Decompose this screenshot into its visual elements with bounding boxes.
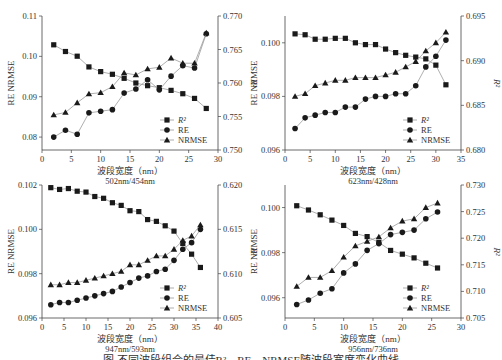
legend-label: NRMSE [421, 135, 450, 145]
legend-label: NRMSE [178, 135, 207, 145]
circle-marker [157, 87, 163, 93]
circle-marker [154, 269, 160, 275]
x-axis-label: 波段宽度（nm） [97, 333, 163, 344]
circle-marker [400, 230, 406, 236]
x-tick-label: 15 [126, 154, 135, 164]
legend-label: NRMSE [178, 303, 207, 313]
square-marker [443, 82, 448, 87]
square-marker [400, 252, 405, 257]
legend: R²RENRMSE [403, 283, 450, 313]
circle-marker [83, 295, 89, 301]
circle-marker [411, 227, 417, 233]
circle-marker [162, 266, 168, 272]
square-marker [154, 219, 159, 224]
square-marker [198, 265, 203, 270]
figure-caption: 图 不同波段组合的最佳R²、RE、NRMSE随波段宽度变化曲线 [0, 353, 502, 360]
square-marker [192, 96, 197, 101]
circle-marker [48, 302, 54, 308]
x-tick-label: 30 [432, 154, 441, 164]
y-tick-label: 0.09 [22, 92, 37, 102]
square-marker [423, 261, 428, 266]
legend-label: RE [421, 293, 432, 303]
chart-panel-p4: 0510152025300.0960.0980.1000.7050.7100.7… [249, 180, 502, 354]
square-marker [294, 203, 299, 208]
triangle-marker [423, 48, 429, 54]
circle-marker [383, 94, 389, 100]
square-marker [333, 36, 338, 41]
circle-marker [373, 94, 379, 100]
y2-tick-label: 0.705 [466, 313, 485, 323]
square-marker [353, 231, 358, 236]
circle-marker [433, 53, 439, 59]
x-tick-label: 30 [214, 154, 223, 164]
square-marker [51, 42, 56, 47]
triangle-marker [144, 257, 150, 263]
square-marker [119, 203, 124, 208]
series-r2 [292, 31, 448, 87]
chart-canvas: 0510152025300.080.090.100.110.7500.7550.… [0, 0, 502, 360]
y2-tick-label: 0.755 [223, 112, 242, 122]
circle-marker [136, 275, 142, 281]
x-tick-label: 25 [427, 322, 436, 332]
y-tick-label: 0.098 [261, 248, 280, 258]
x-tick-label: 20 [398, 322, 407, 332]
x-tick-label: 15 [104, 322, 113, 332]
circle-marker [171, 258, 177, 264]
square-marker [48, 185, 53, 190]
x-tick-label: 5 [69, 154, 73, 164]
legend-label: RE [178, 125, 189, 135]
x-tick-label: 5 [308, 154, 312, 164]
chart-subtitle: 623nm/428nm [348, 176, 398, 186]
square-marker [189, 252, 194, 257]
y-tick-label: 0.11 [22, 11, 37, 21]
square-marker [66, 186, 71, 191]
y2-tick-label: 0.620 [223, 180, 242, 190]
y-tick-label: 0.100 [18, 224, 37, 234]
y-tick-label: 0.100 [261, 38, 280, 48]
series-nrmse [51, 30, 210, 118]
square-marker [363, 42, 368, 47]
chart-panel-p1: 0510152025300.080.090.100.110.7500.7550.… [6, 11, 259, 186]
y2-tick-label: 0.770 [223, 11, 242, 21]
square-marker [145, 83, 150, 88]
square-marker [403, 53, 408, 58]
square-marker [323, 37, 328, 42]
x-tick-label: 35 [192, 322, 201, 332]
x-tick-label: 25 [148, 322, 157, 332]
circle-marker [343, 104, 349, 110]
circle-marker [66, 300, 72, 306]
circle-marker [317, 290, 323, 296]
y2-tick-label: 0.685 [466, 100, 485, 110]
y2-tick-label: 0.690 [466, 56, 485, 66]
circle-marker [435, 209, 441, 215]
square-marker [110, 200, 115, 205]
triangle-marker [294, 283, 300, 289]
square-marker [136, 209, 141, 214]
y-axis-label: RE NRMSE [6, 60, 16, 105]
circle-marker [110, 107, 116, 113]
square-marker [204, 106, 209, 111]
square-marker [353, 40, 358, 45]
x-tick-label: 0 [40, 154, 44, 164]
circle-marker [407, 127, 413, 133]
series-re [294, 209, 440, 307]
triangle-marker [402, 64, 408, 70]
circle-marker [51, 134, 57, 140]
square-marker [163, 223, 168, 228]
square-marker [101, 196, 106, 201]
triangle-marker [74, 100, 80, 106]
x-tick-label: 10 [339, 322, 348, 332]
x-tick-label: 10 [82, 322, 91, 332]
square-marker [92, 194, 97, 199]
x-tick-label: 30 [170, 322, 179, 332]
y-tick-label: 0.08 [22, 132, 37, 142]
y-tick-label: 0.10 [22, 51, 37, 61]
square-marker [393, 50, 398, 55]
y-tick-label: 0.102 [18, 180, 37, 190]
legend-label: R² [177, 115, 186, 125]
circle-marker [110, 289, 116, 295]
x-tick-label: 40 [214, 322, 223, 332]
circle-marker [423, 64, 429, 70]
y-tick-label: 0.098 [261, 91, 280, 101]
circle-marker [164, 127, 170, 133]
